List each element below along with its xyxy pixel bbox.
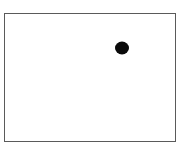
black-dot <box>115 42 129 55</box>
rectangle-frame <box>4 13 176 142</box>
